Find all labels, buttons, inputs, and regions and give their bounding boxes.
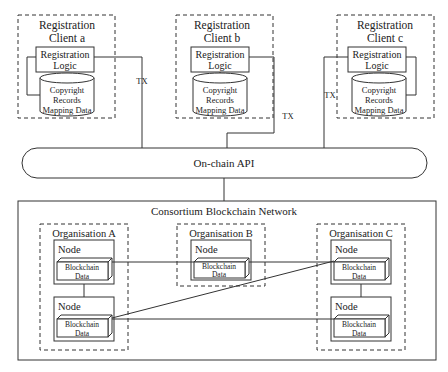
- client-a-db-2: Records: [53, 95, 81, 105]
- tx-line-c: [324, 57, 348, 148]
- org-c-node-1-data-2: Data: [352, 272, 367, 281]
- client-c-logic-2: Logic: [365, 60, 389, 71]
- organisation-b-label: Organisation B: [189, 228, 253, 239]
- client-c-db-1: Copyright: [362, 85, 397, 95]
- client-c-tx-label: TX: [324, 90, 335, 100]
- client-b-logic-2: Logic: [208, 60, 232, 71]
- org-c-node-1-data-1: Blockchain: [342, 263, 376, 272]
- architecture-diagram: Registration Client a Registration Logic…: [0, 0, 448, 372]
- org-a-node-1-data-2: Data: [75, 272, 90, 281]
- tx-line-a: [94, 57, 142, 148]
- org-a-node-1-data-1: Blockchain: [65, 263, 99, 272]
- org-b-node-1-data-2: Data: [212, 270, 227, 279]
- client-c-title-1: Registration: [357, 19, 413, 32]
- client-b-logic-1: Registration: [196, 49, 245, 60]
- org-a-node-1-label: Node: [58, 244, 81, 255]
- client-c-logic-1: Registration: [353, 49, 402, 60]
- client-c-db-2: Records: [365, 95, 393, 105]
- client-a-logic-2: Logic: [53, 60, 77, 71]
- client-a-logic-1: Registration: [41, 49, 90, 60]
- client-b-db-3: Mapping Data: [196, 105, 245, 115]
- client-c-db-3: Mapping Data: [355, 105, 404, 115]
- org-a-node-2-data-2: Data: [75, 329, 90, 338]
- client-b-title-1: Registration: [194, 19, 250, 32]
- org-a-node-2-data-1: Blockchain: [65, 320, 99, 329]
- client-b-title-2: Client b: [204, 32, 241, 44]
- client-a-title-2: Client a: [49, 32, 85, 44]
- client-b-db-1: Copyright: [203, 85, 238, 95]
- org-c-node-2-data-2: Data: [352, 329, 367, 338]
- organisation-a-label: Organisation A: [52, 228, 116, 239]
- org-a-node-2-label: Node: [58, 301, 81, 312]
- org-c-node-2-data-1: Blockchain: [342, 320, 376, 329]
- network-title: Consortium Blockchain Network: [151, 205, 298, 217]
- client-a-db-1: Copyright: [50, 85, 85, 95]
- org-c-node-2-label: Node: [335, 301, 358, 312]
- client-b-tx-label: TX: [282, 111, 293, 121]
- client-b-db-2: Records: [206, 95, 234, 105]
- org-c-node-1-label: Node: [335, 244, 358, 255]
- on-chain-api-label: On-chain API: [194, 157, 255, 169]
- client-a-tx-label: TX: [136, 76, 147, 86]
- client-c-title-2: Client c: [367, 32, 403, 44]
- org-b-node-1-label: Node: [195, 244, 218, 255]
- client-a-title-1: Registration: [39, 19, 95, 32]
- organisation-c-label: Organisation C: [329, 228, 393, 239]
- client-a-db-3: Mapping Data: [43, 105, 92, 115]
